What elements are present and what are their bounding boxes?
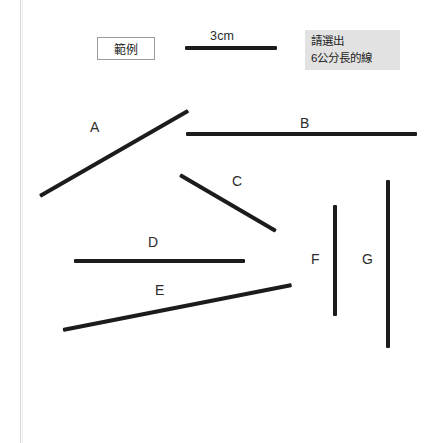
line-segment-a[interactable] — [39, 109, 189, 197]
left-margin-rule — [20, 0, 21, 443]
line-label-f: F — [311, 252, 320, 266]
left-margin-rule-secondary — [22, 0, 23, 443]
instruction-line-2: 6公分長的線 — [311, 50, 395, 67]
instruction-box: 請選出 6公分長的線 — [305, 30, 400, 70]
line-segment-c[interactable] — [179, 173, 277, 232]
line-segment-f[interactable] — [333, 205, 337, 316]
example-label-box: 範例 — [97, 37, 155, 60]
line-label-b: B — [300, 116, 310, 130]
line-label-a: A — [90, 120, 100, 134]
instruction-line-1: 請選出 — [311, 33, 395, 50]
line-segment-d[interactable] — [74, 259, 245, 263]
example-label-text: 範例 — [114, 40, 139, 57]
line-segment-e[interactable] — [63, 283, 293, 332]
line-label-d: D — [148, 235, 158, 249]
line-label-g: G — [362, 252, 373, 266]
worksheet-page: 範例 3cm 請選出 6公分長的線 ABCDEFG — [0, 0, 448, 443]
line-segment-g[interactable] — [386, 180, 390, 348]
reference-length-label: 3cm — [210, 29, 234, 43]
reference-line-3cm — [185, 46, 277, 50]
line-label-c: C — [232, 174, 242, 188]
line-segment-b[interactable] — [186, 132, 417, 136]
line-label-e: E — [155, 283, 165, 297]
